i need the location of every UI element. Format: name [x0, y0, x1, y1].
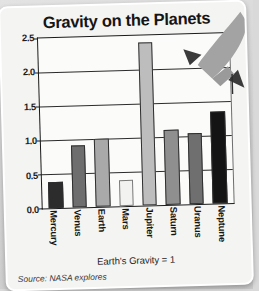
x-tick-label-venus: Venus — [72, 209, 84, 236]
y-tick-label: 0.5 — [14, 170, 38, 182]
plot-area — [37, 32, 235, 209]
chart-card: Gravity on the Planets 0.00.51.01.52.02.… — [0, 0, 254, 291]
bar-earth — [94, 138, 110, 206]
y-tick-label: 1.0 — [13, 135, 37, 147]
bar-mars — [119, 180, 134, 206]
bar-mercury — [48, 182, 63, 208]
x-tick-label-mercury: Mercury — [48, 210, 60, 246]
x-tick-label-uranus: Uranus — [192, 206, 204, 238]
chart-source: Source: NASA explores — [18, 272, 107, 284]
x-tick-label-jupiter: Jupiter — [144, 207, 156, 238]
plot-wrapper: 0.00.51.01.52.02.5 — [8, 32, 241, 210]
x-tick-label-saturn: Saturn — [168, 207, 180, 236]
x-tick-label-earth: Earth — [96, 209, 108, 233]
y-tick-label: 2.0 — [11, 66, 35, 78]
bar-saturn — [164, 130, 181, 205]
x-tick-label-neptune: Neptune — [216, 205, 228, 242]
bar-neptune — [210, 111, 227, 203]
y-axis-labels: 0.00.51.01.52.02.5 — [8, 38, 39, 211]
bar-slot — [204, 33, 232, 204]
bar-uranus — [187, 132, 203, 204]
y-tick-label: 1.5 — [12, 101, 36, 113]
y-tick-label: 0.0 — [15, 204, 39, 216]
chart-title: Gravity on the Planets — [0, 8, 244, 34]
bar-venus — [71, 145, 87, 207]
bar-jupiter — [138, 42, 157, 206]
y-tick-mark — [39, 208, 43, 209]
y-tick-label: 2.5 — [10, 32, 34, 44]
bar-series — [38, 33, 234, 208]
x-tick-label-mars: Mars — [120, 208, 132, 230]
